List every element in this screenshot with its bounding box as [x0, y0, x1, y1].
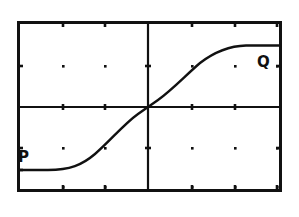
- bottom-border-ticks: [63, 185, 277, 190]
- calculator-graph-screenshot: P Q: [0, 0, 299, 217]
- point-label-q: Q: [257, 55, 269, 70]
- top-border-ticks: [63, 22, 277, 27]
- point-label-p: P: [18, 150, 29, 165]
- plot-canvas: [0, 0, 299, 217]
- grid-dots: [62, 65, 279, 189]
